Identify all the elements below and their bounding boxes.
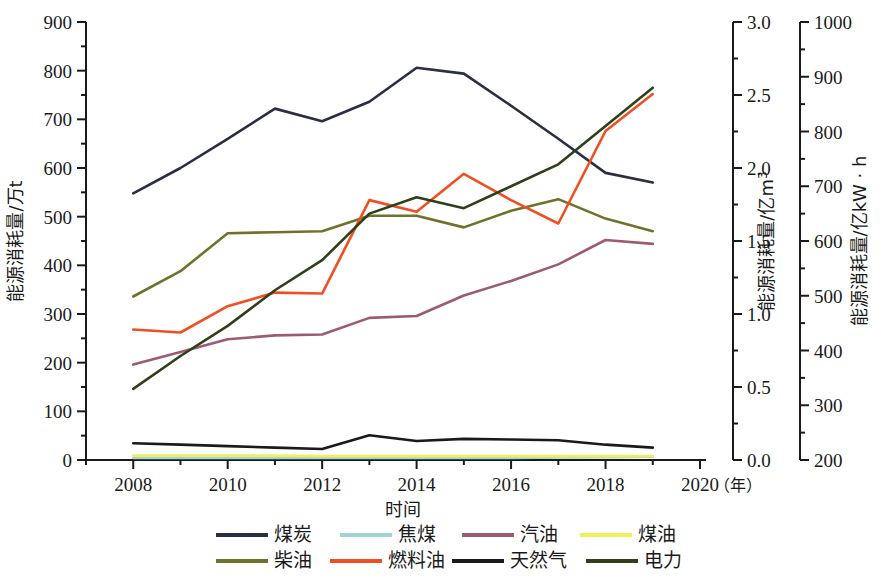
- y-axis-left-tick-label: 500: [44, 207, 73, 228]
- legend-label: 焦煤: [398, 523, 436, 545]
- legend-label: 煤炭: [274, 523, 312, 545]
- y-axis-right1-tick-label: 0.5: [747, 377, 771, 398]
- series-line-5: [133, 94, 653, 332]
- x-tick-label: 2010: [209, 474, 247, 495]
- y-axis-right2-tick-label: 400: [814, 341, 843, 362]
- legend-item-柴油[interactable]: 柴油: [216, 549, 312, 571]
- y-axis-right2-tick-label: 800: [814, 122, 843, 143]
- series-line-6: [133, 435, 653, 449]
- legend-item-焦煤[interactable]: 焦煤: [340, 523, 436, 545]
- legend-item-天然气[interactable]: 天然气: [452, 549, 567, 571]
- y-axis-right2-tick-label: 600: [814, 231, 843, 252]
- series-line-0: [133, 68, 653, 194]
- x-tick-label: 2016: [492, 474, 530, 495]
- x-tick-label: 2012: [303, 474, 341, 495]
- y-axis-right2-title: 能源消耗量/亿kW · h: [849, 156, 870, 327]
- legend-label: 柴油: [274, 549, 312, 571]
- y-axis-left-tick-label: 0: [63, 450, 73, 471]
- legend-label: 燃料油: [388, 549, 445, 571]
- y-axis-left-tick-label: 400: [44, 255, 73, 276]
- legend-item-电力[interactable]: 电力: [586, 549, 682, 571]
- x-axis-unit: （年）: [714, 476, 762, 495]
- series-layer: [133, 68, 653, 458]
- y-axis-right2-tick-label: 300: [814, 395, 843, 416]
- y-axis-right2-tick-label: 1000: [814, 12, 852, 33]
- y-axis-right2-tick-label: 900: [814, 67, 843, 88]
- y-axis-left-title: 能源消耗量/万t: [5, 180, 26, 301]
- legend-item-煤油[interactable]: 煤油: [580, 523, 676, 545]
- y-axis-left-tick-label: 700: [44, 109, 73, 130]
- y-axis-right2-tick-label: 500: [814, 286, 843, 307]
- legend-item-汽油[interactable]: 汽油: [462, 523, 558, 545]
- legend-label: 电力: [644, 549, 682, 571]
- y-axis-right1-tick-label: 3.0: [747, 12, 771, 33]
- legend-label: 天然气: [510, 549, 567, 571]
- y-axis-left-tick-label: 100: [44, 401, 73, 422]
- chart-root: 2008201020122014201620182020时间（年）0100200…: [0, 0, 883, 580]
- series-line-2: [133, 240, 653, 365]
- energy-consumption-line-chart: 2008201020122014201620182020时间（年）0100200…: [0, 0, 883, 580]
- y-axis-left-tick-label: 300: [44, 304, 73, 325]
- x-tick-label: 2014: [398, 474, 437, 495]
- y-axis-right2-tick-label: 200: [814, 450, 843, 471]
- series-line-4: [133, 199, 653, 296]
- x-axis-title: 时间: [385, 499, 421, 520]
- y-axis-right1-tick-label: 0.0: [747, 450, 771, 471]
- y-axis-left-tick-label: 200: [44, 353, 73, 374]
- legend-layer: 煤炭焦煤汽油煤油柴油燃料油天然气电力: [216, 523, 682, 571]
- legend-label: 煤油: [638, 523, 676, 545]
- y-axis-right1-title: 能源消耗量/亿m3: [756, 171, 777, 310]
- y-axis-right1-tick-label: 2.5: [747, 85, 771, 106]
- x-tick-label: 2008: [114, 474, 152, 495]
- y-axis-left-tick-label: 600: [44, 158, 73, 179]
- legend-item-煤炭[interactable]: 煤炭: [216, 523, 312, 545]
- y-axis-left-tick-label: 800: [44, 61, 73, 82]
- axes-layer: [77, 22, 809, 469]
- y-axis-left-tick-label: 900: [44, 12, 73, 33]
- x-tick-label: 2018: [587, 474, 625, 495]
- y-axis-right2-tick-label: 700: [814, 176, 843, 197]
- legend-label: 汽油: [520, 523, 558, 545]
- legend-item-燃料油[interactable]: 燃料油: [330, 549, 445, 571]
